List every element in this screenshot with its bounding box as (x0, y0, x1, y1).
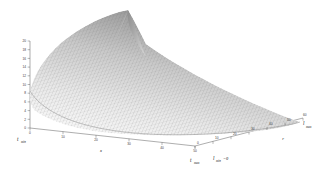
z-tick-5: 10 (22, 83, 26, 87)
z-tick-3: 6 (24, 100, 26, 104)
y-tick-2: 20 (233, 132, 237, 136)
y-tick-6: 60 (303, 113, 307, 117)
t-max-sub: max (194, 161, 200, 165)
l-max-sub: max (306, 125, 312, 129)
r-axis-label: r (282, 136, 284, 141)
z-tick-0: 0 (24, 126, 26, 130)
l-min-equals: =0 (223, 156, 229, 161)
z-tick-6: 12 (22, 74, 26, 78)
z-tick-10: 20 (22, 39, 26, 43)
z-tick-2: 4 (24, 109, 26, 113)
z-tick-7: 14 (22, 65, 26, 69)
z-tick-8: 16 (22, 57, 26, 61)
z-tick-1: 2 (24, 118, 26, 122)
t-min-sub: min (21, 140, 26, 144)
x-tick-2: 20 (94, 138, 98, 142)
x-tick-3: 30 (127, 142, 131, 146)
surface-plot-figure: 0 2 4 6 8 10 12 14 16 18 20 0 10 20 30 (0, 0, 328, 173)
x-tick-4: 40 (160, 146, 164, 150)
x-tick-1: 10 (61, 135, 65, 139)
x-tick-0: 0 (29, 131, 31, 135)
l-min-sub: min (216, 159, 221, 163)
y-tick-4: 40 (269, 122, 273, 126)
x-axis-label: x (99, 148, 102, 153)
y-tick-0: 0 (197, 141, 199, 145)
z-tick-9: 18 (22, 48, 26, 52)
y-tick-3: 30 (251, 127, 255, 131)
z-tick-4: 8 (24, 91, 26, 95)
y-tick-5: 50 (287, 118, 291, 122)
x-tick-5: 50 (193, 149, 197, 153)
y-tick-1: 10 (215, 136, 219, 140)
